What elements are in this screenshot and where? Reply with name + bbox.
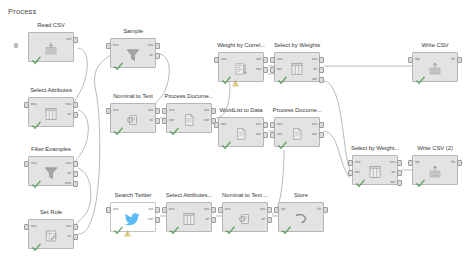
output-port-select-by-weights-ori[interactable]: [319, 67, 324, 73]
operator-node-read-csv[interactable]: Read CSVout: [28, 32, 74, 62]
input-port-select-by-weights-2-exa[interactable]: [348, 160, 353, 166]
process-panel-title: Process: [8, 7, 37, 16]
output-port-label-wordlist-to-data-wor: wor: [256, 132, 261, 137]
input-port-select-attributes-exa[interactable]: [24, 102, 29, 108]
operator-label-select-by-weights-2: Select by Weight...: [351, 145, 399, 151]
status-check-icon: [278, 71, 287, 80]
output-port-sample-exa[interactable]: [155, 43, 160, 49]
output-port-search-twitter-out[interactable]: [155, 207, 160, 213]
output-port-select-by-weights-exa[interactable]: [319, 57, 324, 63]
input-port-select-by-weights-exa[interactable]: [270, 57, 275, 63]
input-port-search-twitter-con[interactable]: [106, 207, 111, 213]
operator-node-process-documents-2[interactable]: Process Docume...exaworexawor: [274, 117, 320, 147]
output-port-write-csv-thr[interactable]: [457, 57, 462, 63]
operator-node-filter-examples[interactable]: Filter Examplesexaexaoriunm: [28, 156, 74, 186]
output-port-weight-by-correlation-exa[interactable]: [263, 67, 268, 73]
operator-label-filter-examples: Filter Examples: [31, 146, 71, 152]
status-check-icon: [356, 174, 365, 183]
output-port-process-documents-2-exa[interactable]: [319, 122, 324, 128]
input-port-write-csv-2-inp[interactable]: [408, 160, 413, 166]
output-port-set-role-exa[interactable]: [73, 224, 78, 230]
funnel-icon: [43, 166, 59, 180]
input-port-process-documents-2-exa[interactable]: [270, 122, 275, 128]
input-port-filter-examples-exa[interactable]: [24, 161, 29, 167]
operator-node-wordlist-to-data[interactable]: WordList to Dataworexawor: [218, 117, 264, 147]
output-port-label-select-attributes-2-exa: exa: [204, 207, 209, 212]
output-port-process-documents-1-exa[interactable]: [211, 108, 216, 114]
input-port-label-select-attributes-exa: exa: [31, 102, 36, 107]
output-port-store-thr[interactable]: [323, 207, 328, 213]
input-port-select-by-weights-2-wei[interactable]: [348, 170, 353, 176]
output-port-select-attributes-2-exa[interactable]: [211, 207, 216, 213]
output-port-wordlist-to-data-exa[interactable]: [263, 122, 268, 128]
output-port-select-by-weights-wei[interactable]: [319, 77, 324, 83]
status-check-icon: [170, 122, 179, 131]
output-port-label-sample-ori: ori: [150, 53, 153, 58]
operator-node-store[interactable]: Storeinpthr: [278, 202, 324, 232]
operator-node-select-attributes-2[interactable]: Select Attributes...exaexaori: [166, 202, 212, 232]
input-port-nominal-to-text-2-exa[interactable]: [218, 207, 223, 213]
input-port-process-documents-1-exa[interactable]: [162, 108, 167, 114]
operator-node-nominal-to-text-2[interactable]: Nominal to Text ...exaexaori: [222, 202, 268, 232]
output-port-select-attributes-exa[interactable]: [73, 102, 78, 108]
input-port-select-by-weights-wei[interactable]: [270, 67, 275, 73]
input-port-label-nominal-to-text-2-exa: exa: [225, 207, 230, 212]
input-port-nominal-to-text-exa[interactable]: [106, 108, 111, 114]
output-port-label-write-csv-2-thr: thr: [451, 160, 455, 165]
output-port-nominal-to-text-exa[interactable]: [155, 108, 160, 114]
operator-node-nominal-to-text[interactable]: Nominal to Textexaexaori: [110, 103, 156, 133]
document-icon: [289, 127, 305, 141]
output-port-select-attributes-ori[interactable]: [73, 112, 78, 118]
output-port-nominal-to-text-2-ori[interactable]: [267, 217, 272, 223]
output-port-label-set-role-exa: exa: [66, 224, 71, 229]
output-port-wordlist-to-data-wor[interactable]: [263, 132, 268, 138]
operator-node-write-csv[interactable]: Write CSVinpthr: [412, 52, 458, 82]
output-port-set-role-ori[interactable]: [73, 234, 78, 240]
status-warning-icon: [124, 223, 131, 230]
document-icon: [233, 127, 249, 141]
process-canvas[interactable]: Process Read CSVoutSelect Attributesexae…: [0, 0, 466, 260]
operator-node-sample[interactable]: Sampleexaexaori: [110, 38, 156, 68]
input-port-weight-by-correlation-exa[interactable]: [214, 57, 219, 63]
operator-node-select-by-weights[interactable]: Select by Weightsexaweiexaoriwei: [274, 52, 320, 82]
input-port-set-role-exa[interactable]: [24, 224, 29, 230]
input-port-wordlist-to-data-wor[interactable]: [214, 122, 219, 128]
operator-node-search-twitter[interactable]: Search Twitterconoutcon: [110, 202, 156, 232]
output-port-filter-examples-ori[interactable]: [73, 171, 78, 177]
output-port-sample-ori[interactable]: [155, 53, 160, 59]
output-port-select-attributes-2-ori[interactable]: [211, 217, 216, 223]
operator-node-write-csv-2[interactable]: Write CSV (2)inpthr: [412, 155, 458, 185]
input-port-store-inp[interactable]: [274, 207, 279, 213]
input-port-process-documents-2-wor[interactable]: [270, 132, 275, 138]
operator-node-set-role[interactable]: Set Roleexaexaori: [28, 219, 74, 249]
output-port-select-by-weights-2-wei[interactable]: [397, 180, 402, 186]
operator-node-select-attributes[interactable]: Select Attributesexaexaori: [28, 97, 74, 127]
output-port-nominal-to-text-ori[interactable]: [155, 118, 160, 124]
output-port-label-search-twitter-con: con: [148, 217, 153, 222]
output-port-weight-by-correlation-wei[interactable]: [263, 57, 268, 63]
output-port-label-select-by-weights-exa: exa: [312, 57, 317, 62]
output-port-label-sample-exa: exa: [148, 43, 153, 48]
input-port-read-csv-source-nub[interactable]: [14, 43, 18, 48]
output-port-write-csv-2-thr[interactable]: [457, 160, 462, 166]
table-columns-icon: [367, 165, 383, 179]
input-port-label-process-documents-2-wor: wor: [277, 132, 282, 137]
input-port-select-attributes-2-exa[interactable]: [162, 207, 167, 213]
output-port-nominal-to-text-2-exa[interactable]: [267, 207, 272, 213]
input-port-write-csv-inp[interactable]: [408, 57, 413, 63]
output-port-select-by-weights-2-exa[interactable]: [397, 160, 402, 166]
input-port-process-documents-1-wor[interactable]: [162, 118, 167, 124]
output-port-read-csv-out[interactable]: [73, 37, 78, 43]
input-port-label-select-by-weights-2-wei: wei: [355, 170, 360, 175]
output-port-select-by-weights-2-ori[interactable]: [397, 170, 402, 176]
operator-node-select-by-weights-2[interactable]: Select by Weight...exaweiexaoriwei: [352, 155, 398, 185]
operator-label-select-by-weights: Select by Weights: [274, 42, 320, 48]
output-port-filter-examples-exa[interactable]: [73, 161, 78, 167]
operator-label-write-csv-2: Write CSV (2): [417, 145, 453, 151]
operator-node-process-documents-1[interactable]: Process Docume...exaworexawor: [166, 103, 212, 133]
output-port-process-documents-2-wor[interactable]: [319, 132, 324, 138]
output-port-search-twitter-con[interactable]: [155, 217, 160, 223]
input-port-sample-exa[interactable]: [106, 43, 111, 49]
output-port-filter-examples-unm[interactable]: [73, 181, 78, 187]
operator-node-weight-by-correlation[interactable]: Weight by Correl...exaweiexa: [218, 52, 264, 82]
